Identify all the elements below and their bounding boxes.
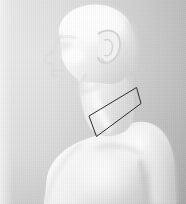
annotation-quadrilateral[interactable]	[89, 88, 141, 137]
photograph-with-annotation	[0, 0, 186, 204]
annotation-overlay	[0, 0, 186, 204]
